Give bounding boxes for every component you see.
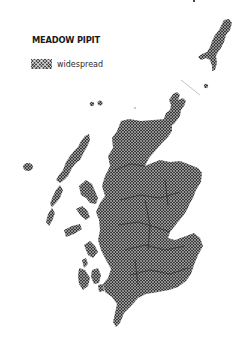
crosshatch-swatch-icon <box>31 59 52 69</box>
st-kilda <box>90 101 103 107</box>
distribution-map: MEADOW PIPIT widespread <box>0 0 242 348</box>
shetland-islands <box>193 0 232 71</box>
map-title: MEADOW PIPIT <box>32 35 100 45</box>
map-legend: widespread <box>31 59 103 69</box>
fair-isle <box>204 84 208 88</box>
map-canvas <box>0 0 242 348</box>
legend-label-widespread: widespread <box>57 60 103 69</box>
inner-hebrides <box>64 180 104 292</box>
inset-separator-line <box>181 80 200 95</box>
